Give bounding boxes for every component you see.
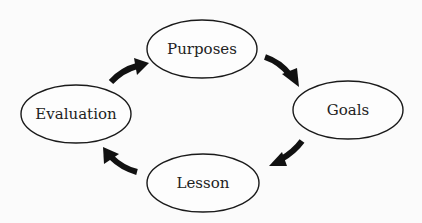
cycle-diagram: Purposes Goals Lesson Evaluation [0, 0, 422, 223]
node-lesson: Lesson [147, 154, 259, 212]
arrow-purposes-to-goals [265, 57, 299, 87]
arrow-goals-to-lesson [269, 141, 302, 166]
arrow-head-icon [134, 58, 149, 75]
arrow-lesson-to-evaluation [103, 147, 137, 172]
node-label-lesson: Lesson [177, 174, 230, 192]
node-label-purposes: Purposes [167, 40, 237, 58]
arrow-evaluation-to-purposes [111, 58, 149, 82]
arrow-shaft [111, 157, 137, 172]
node-label-goals: Goals [327, 101, 369, 119]
node-purposes: Purposes [147, 20, 257, 78]
node-goals: Goals [293, 81, 403, 139]
node-evaluation: Evaluation [21, 85, 131, 143]
node-label-evaluation: Evaluation [35, 105, 117, 123]
arrow-shaft [111, 66, 137, 82]
